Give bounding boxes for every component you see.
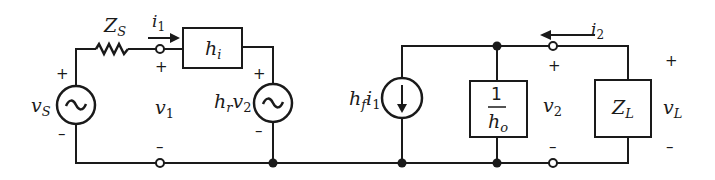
circuit-diagram: ZS i1 vS + – + – v1 hi hrv2 + – hfi1 1 h… (0, 0, 715, 180)
v2-minus: – (549, 138, 557, 156)
v2-label: v2 (543, 94, 562, 119)
sine-icon (263, 99, 283, 108)
sine-icon (66, 101, 86, 110)
junction-dot (493, 159, 502, 168)
input-terminal-top (156, 45, 164, 53)
circuit-svg: ZS i1 vS + – + – v1 hi hrv2 + – hfi1 1 h… (0, 0, 715, 180)
hf-label: hfi1 (349, 87, 380, 112)
v1-label: v1 (155, 96, 174, 121)
junction-dot (398, 159, 407, 168)
vs-label: vS (31, 94, 51, 119)
i2-label: i2 (591, 19, 604, 42)
input-terminal-bottom (156, 159, 164, 167)
v2-plus: + (548, 57, 561, 75)
wire-ground-right (557, 137, 628, 163)
vl-plus: + (665, 52, 678, 70)
ho-numerator: 1 (491, 84, 502, 104)
wire-output-top (402, 46, 549, 78)
junction-dot (269, 159, 278, 168)
i2-arrow-head-icon (540, 30, 551, 40)
wire-zl-top (557, 46, 628, 80)
cs-arrow-head-icon (397, 104, 407, 113)
wire-source-bottom (76, 124, 156, 163)
output-terminal-bottom (549, 159, 557, 167)
v1-plus: + (155, 58, 168, 76)
vs-minus: – (58, 125, 66, 143)
junction-dot (493, 42, 502, 51)
vs-plus: + (56, 65, 69, 83)
hr-minus: – (255, 122, 263, 140)
i1-arrow-head-icon (170, 33, 180, 43)
v1-minus: – (156, 138, 164, 156)
ho-denominator: ho (488, 110, 508, 135)
hr-plus: + (253, 65, 266, 83)
hi-label: hi (205, 37, 221, 62)
zl-label: ZL (611, 96, 634, 121)
output-terminal-top (549, 42, 557, 50)
wire-source-top (76, 49, 96, 86)
vl-label: vL (663, 96, 682, 121)
zs-resistor (96, 44, 128, 54)
vl-minus: – (666, 138, 674, 156)
zs-label: ZS (103, 14, 126, 39)
hr-label: hrv2 (214, 90, 251, 115)
i1-label: i1 (152, 11, 165, 34)
